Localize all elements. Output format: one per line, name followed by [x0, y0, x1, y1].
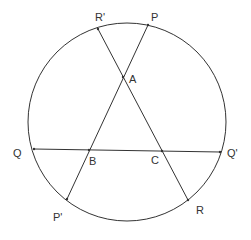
point-B [88, 149, 90, 151]
point-C [161, 150, 163, 152]
point-R [187, 199, 189, 201]
label-P: P [151, 11, 158, 23]
diagram: R' P A Q Q' B C P' R [0, 0, 251, 240]
circle-chords-diagram: R' P A Q Q' B C P' R [0, 0, 251, 240]
chord-R-prime-R [98, 29, 188, 200]
label-C: C [151, 154, 159, 166]
label-R-prime: R' [95, 11, 105, 23]
chord-P-P-prime [67, 25, 148, 199]
circle [28, 23, 226, 221]
point-R-prime [97, 28, 99, 30]
point-P [147, 24, 149, 26]
label-R: R [196, 204, 204, 216]
chord-Q-Q-prime [34, 149, 220, 152]
label-Q-prime: Q' [227, 147, 238, 159]
label-A: A [129, 73, 137, 85]
point-P-prime [66, 198, 68, 200]
point-Q-prime [219, 151, 221, 153]
point-Q [33, 148, 35, 150]
label-B: B [89, 155, 96, 167]
label-Q: Q [13, 147, 22, 159]
label-P-prime: P' [53, 211, 62, 223]
point-A [122, 76, 124, 78]
